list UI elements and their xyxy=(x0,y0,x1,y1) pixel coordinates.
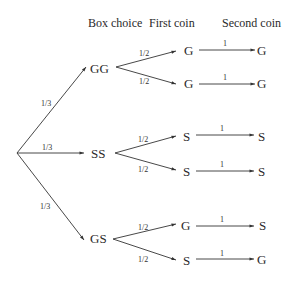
edge-root-gg xyxy=(17,67,86,153)
node-second-ss-1: S xyxy=(258,129,265,144)
prob-ss-1: 1/2 xyxy=(138,135,148,144)
edge-root-gs xyxy=(17,153,84,240)
node-second-gs-2: G xyxy=(257,252,266,267)
node-box-gg: GG xyxy=(90,61,109,76)
prob-root-ss: 1/3 xyxy=(42,143,52,152)
node-second-gg-1: G xyxy=(257,43,266,58)
node-second-ss-2: S xyxy=(258,164,265,179)
prob-root-gg: 1/3 xyxy=(41,99,51,108)
prob-gs-1: 1/2 xyxy=(138,223,148,232)
prob-ss-second-2: 1 xyxy=(220,160,224,169)
prob-gs-second-1: 1 xyxy=(220,215,224,224)
probability-tree: Box choice First coin Second coin 1/3 1/… xyxy=(0,0,292,281)
prob-gg-second-2: 1 xyxy=(223,73,227,82)
node-second-gg-2: G xyxy=(257,76,266,91)
prob-gg-1: 1/2 xyxy=(139,49,149,58)
prob-ss-2: 1/2 xyxy=(138,165,148,174)
prob-root-gs: 1/3 xyxy=(40,202,50,211)
prob-gs-2: 1/2 xyxy=(138,255,148,264)
root-edges xyxy=(17,67,86,240)
header-first-coin: First coin xyxy=(149,16,195,30)
node-first-gs-1: G xyxy=(181,218,190,233)
header-second-coin: Second coin xyxy=(222,16,281,30)
node-first-ss-2: S xyxy=(183,164,190,179)
header-box-choice: Box choice xyxy=(88,16,142,30)
node-box-ss: SS xyxy=(91,146,105,161)
prob-gs-second-2: 1 xyxy=(220,249,224,258)
node-box-gs: GS xyxy=(90,231,107,246)
node-second-gs-1: S xyxy=(259,218,266,233)
node-first-gs-2: S xyxy=(183,253,190,268)
prob-ss-second-1: 1 xyxy=(220,124,224,133)
node-first-gg-2: G xyxy=(184,76,193,91)
node-first-ss-1: S xyxy=(183,129,190,144)
prob-gg-second-1: 1 xyxy=(223,39,227,48)
node-first-gg-1: G xyxy=(184,43,193,58)
prob-gg-2: 1/2 xyxy=(139,77,149,86)
